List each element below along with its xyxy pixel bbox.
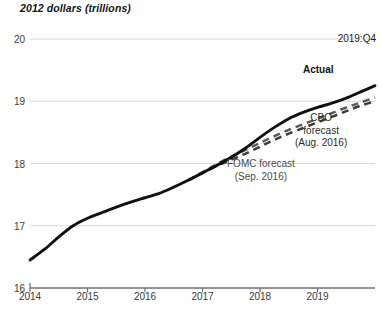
x-axis-tick-2015: 2015 — [76, 291, 98, 302]
x-axis-tick-2016: 2016 — [134, 291, 156, 302]
x-axis-tick-2017: 2017 — [191, 291, 213, 302]
y-axis-tick-17: 17 — [14, 220, 32, 231]
cbo-forecast-label: CBO forecast (Aug. 2016) — [295, 112, 347, 150]
period-end-label: 2019:Q4 — [338, 33, 376, 46]
y-axis-tick-20: 20 — [14, 34, 32, 45]
x-axis-tick-2019: 2019 — [306, 291, 328, 302]
chart-container: 2012 dollars (trillions) 20 19 18 17 16 … — [0, 0, 382, 314]
actual-series-label: Actual — [303, 64, 334, 77]
y-axis-tick-18: 18 — [14, 158, 32, 169]
fomc-forecast-label: FOMC forecast (Sep. 2016) — [227, 158, 295, 183]
chart-plot-area — [0, 0, 382, 314]
x-axis-tick-2018: 2018 — [249, 291, 271, 302]
x-axis-tick-2014: 2014 — [19, 291, 41, 302]
y-axis-tick-19: 19 — [14, 96, 32, 107]
